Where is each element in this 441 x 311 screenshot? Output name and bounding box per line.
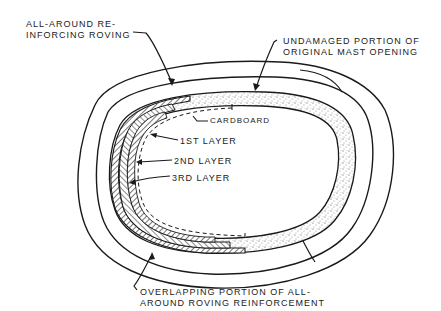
label-reinforcing-roving: ALL-AROUND RE- INFORCING ROVING <box>26 19 131 41</box>
mast-opening-diagram: ALL-AROUND RE- INFORCING ROVING UNDAMAGE… <box>0 0 441 311</box>
label-line: ALL-AROUND RE- <box>26 19 131 30</box>
label-overlapping-portion: OVERLAPPING PORTION OF ALL- AROUND ROVIN… <box>140 287 325 309</box>
label-line: ORIGINAL MAST OPENING <box>283 47 420 58</box>
cardboard-dashed-line <box>138 108 245 236</box>
label-layer3: 3RD LAYER <box>172 173 230 184</box>
leader-undamaged <box>256 40 277 88</box>
label-line: OVERLAPPING PORTION OF ALL- <box>140 287 325 298</box>
leader-layer2 <box>139 160 172 162</box>
label-layer1: 1ST LAYER <box>180 136 237 147</box>
label-cardboard: CARDBOARD <box>210 115 270 126</box>
label-undamaged-portion: UNDAMAGED PORTION OF ORIGINAL MAST OPENI… <box>283 36 420 58</box>
label-line: UNDAMAGED PORTION OF <box>283 36 420 47</box>
label-line: INFORCING ROVING <box>26 30 131 41</box>
label-layer2: 2ND LAYER <box>174 156 232 167</box>
leader-cardboard <box>193 116 208 121</box>
leader-layer1 <box>153 135 178 140</box>
label-line: AROUND ROVING REINFORCEMENT <box>140 298 325 309</box>
